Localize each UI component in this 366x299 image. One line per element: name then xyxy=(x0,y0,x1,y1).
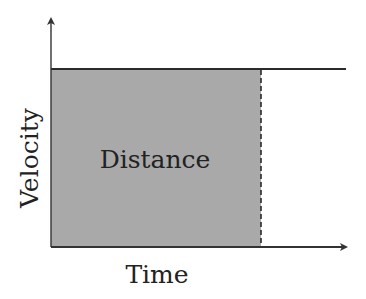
x-axis-label: Time xyxy=(125,260,188,289)
area-label: Distance xyxy=(100,145,211,174)
y-axis-label: Velocity xyxy=(15,107,44,209)
velocity-time-diagram: Distance Time Velocity xyxy=(0,0,366,299)
